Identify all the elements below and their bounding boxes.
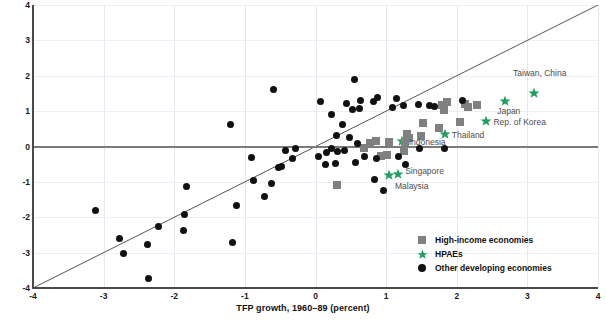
- x-tick-label: 2: [442, 292, 472, 301]
- y-tick-label: 0: [4, 143, 30, 152]
- legend-label: High-income economies: [435, 236, 533, 245]
- data-point-circle: [400, 102, 407, 109]
- data-point-label: Malaysia: [395, 182, 429, 191]
- data-point-label: Thailand: [452, 131, 485, 140]
- y-tick-label: -1: [4, 178, 30, 187]
- x-tick-label: 1: [371, 292, 401, 301]
- data-point-circle: [144, 241, 151, 248]
- legend-item: High-income economies: [414, 234, 552, 246]
- data-point-circle: [395, 153, 402, 160]
- data-point-label: Taiwan, China: [513, 69, 566, 78]
- legend-square-icon: [414, 236, 430, 244]
- scatter-chart: 43210-1-2-3-4 -4-3-2-101234 Taiwan, Chin…: [0, 0, 606, 324]
- x-tick-label: 0: [301, 292, 331, 301]
- legend-item: Other developing economies: [414, 262, 552, 274]
- legend-label: Other developing economies: [435, 264, 552, 273]
- data-point-square: [435, 124, 443, 132]
- data-point-square: [473, 101, 481, 109]
- y-tick-label: 4: [4, 1, 30, 10]
- y-tick-label: 2: [4, 72, 30, 81]
- data-point-circle: [374, 94, 381, 101]
- data-point-circle: [323, 149, 330, 156]
- data-point-circle: [261, 193, 268, 200]
- legend-item: HPAEs: [414, 248, 552, 260]
- zero-line: [33, 146, 598, 148]
- data-point-circle: [181, 211, 188, 218]
- data-point-circle: [389, 104, 396, 111]
- data-point-square: [385, 138, 393, 146]
- gridline-vertical: [598, 5, 599, 288]
- data-point-circle: [116, 235, 123, 242]
- data-point-star: [383, 169, 395, 181]
- data-point-circle: [183, 183, 190, 190]
- data-point-circle: [289, 155, 296, 162]
- y-axis: [32, 5, 34, 289]
- data-point-circle: [346, 134, 353, 141]
- data-point-circle: [334, 148, 341, 155]
- x-tick-label: -1: [230, 292, 260, 301]
- data-point-label: Singapore: [405, 167, 444, 176]
- x-tick-label: -4: [18, 292, 48, 301]
- y-tick-label: -2: [4, 213, 30, 222]
- x-tick-label: -3: [89, 292, 119, 301]
- y-tick-label: 3: [4, 36, 30, 45]
- data-point-circle: [92, 207, 99, 214]
- data-point-circle: [120, 250, 127, 257]
- data-point-circle: [459, 97, 466, 104]
- y-tick-label: 1: [4, 107, 30, 116]
- data-point-circle: [371, 176, 378, 183]
- data-point-star: [480, 115, 492, 127]
- data-point-circle: [292, 145, 299, 152]
- y-tick-label: -3: [4, 249, 30, 258]
- data-point-circle: [270, 86, 277, 93]
- data-point-label: Indonesia: [409, 138, 446, 147]
- data-point-circle: [145, 275, 152, 282]
- x-axis: [32, 287, 598, 289]
- data-point-circle: [268, 180, 275, 187]
- data-point-circle: [315, 153, 322, 160]
- legend-label: HPAEs: [435, 250, 463, 259]
- x-axis-title: TFP growth, 1960–89 (percent): [0, 303, 606, 313]
- data-point-square: [440, 106, 448, 114]
- data-point-circle: [180, 227, 187, 234]
- x-tick-label: -2: [159, 292, 189, 301]
- data-point-square: [456, 118, 464, 126]
- data-point-circle: [351, 76, 358, 83]
- data-point-circle: [431, 103, 438, 110]
- data-point-circle: [343, 100, 350, 107]
- data-point-circle: [349, 106, 356, 113]
- data-point-square: [419, 119, 427, 127]
- data-point-circle: [352, 159, 359, 166]
- data-point-circle: [380, 187, 387, 194]
- data-point-circle: [393, 95, 400, 102]
- data-point-star: [528, 87, 540, 99]
- legend-circle-icon: [414, 264, 430, 272]
- data-point-label: Rep. of Korea: [493, 118, 545, 127]
- data-point-circle: [250, 177, 257, 184]
- data-point-circle: [229, 239, 236, 246]
- data-point-label: Japan: [497, 107, 520, 116]
- x-tick-label: 3: [512, 292, 542, 301]
- data-point-square: [360, 144, 368, 152]
- legend: High-income economiesHPAEsOther developi…: [414, 234, 552, 276]
- data-point-circle: [356, 105, 363, 112]
- y-axis-ticks: 43210-1-2-3-4: [0, 0, 30, 324]
- data-point-square: [464, 103, 472, 111]
- x-tick-label: 4: [583, 292, 606, 301]
- data-point-square: [333, 181, 341, 189]
- legend-star-icon: [414, 249, 430, 260]
